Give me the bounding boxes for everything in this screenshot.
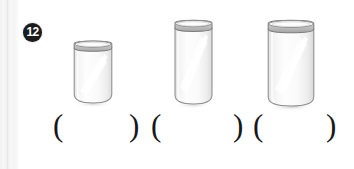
question-number-badge: 12	[23, 23, 42, 42]
scan-edge-artifact	[0, 0, 19, 169]
answer-slot-2-close-paren: )	[233, 110, 243, 141]
drinking-glass-small	[71, 40, 115, 108]
drinking-glass-large	[265, 19, 317, 111]
answer-slot-1-close-paren: )	[129, 110, 139, 141]
worksheet-page: 12	[0, 0, 354, 169]
answer-slot-1-open-paren: (	[53, 110, 63, 141]
answer-slot-3-close-paren: )	[326, 110, 336, 141]
answer-slot-2-open-paren: (	[151, 110, 161, 141]
answer-slot-3-open-paren: (	[253, 110, 263, 141]
drinking-glass-medium	[172, 19, 215, 109]
